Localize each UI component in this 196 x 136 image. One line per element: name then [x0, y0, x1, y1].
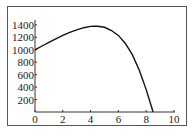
x-tick-label: 6 — [116, 113, 122, 125]
y-tick-label: 1000 — [12, 44, 35, 56]
line-chart: 200400600800100012001400 0246810 — [0, 0, 196, 136]
y-tick-label: 1400 — [12, 19, 35, 31]
x-tick-label: 4 — [88, 113, 94, 125]
x-tick-label: 2 — [60, 113, 66, 125]
x-tick-label: 0 — [32, 113, 38, 125]
y-ticks: 200400600800100012001400 — [12, 19, 37, 106]
x-tick-label: 10 — [169, 113, 181, 125]
y-tick-label: 200 — [18, 94, 35, 106]
x-tick-label: 8 — [143, 113, 149, 125]
y-tick-label: 600 — [18, 69, 35, 81]
y-tick-label: 400 — [18, 81, 35, 93]
y-tick-label: 1200 — [12, 31, 35, 43]
data-line — [35, 26, 153, 112]
y-tick-label: 800 — [18, 56, 35, 68]
